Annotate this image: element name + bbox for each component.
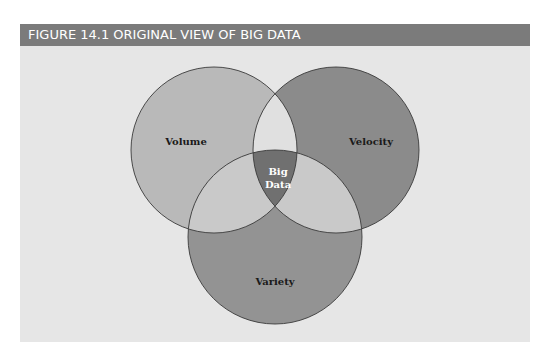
- big-data-label-line2: Data: [265, 179, 292, 190]
- variety-label: Variety: [254, 276, 295, 287]
- venn-diagram: Volume Velocity Variety Big Data: [0, 0, 548, 363]
- big-data-label-line1: Big: [268, 166, 287, 177]
- velocity-label: Velocity: [348, 136, 394, 147]
- volume-label: Volume: [164, 136, 207, 147]
